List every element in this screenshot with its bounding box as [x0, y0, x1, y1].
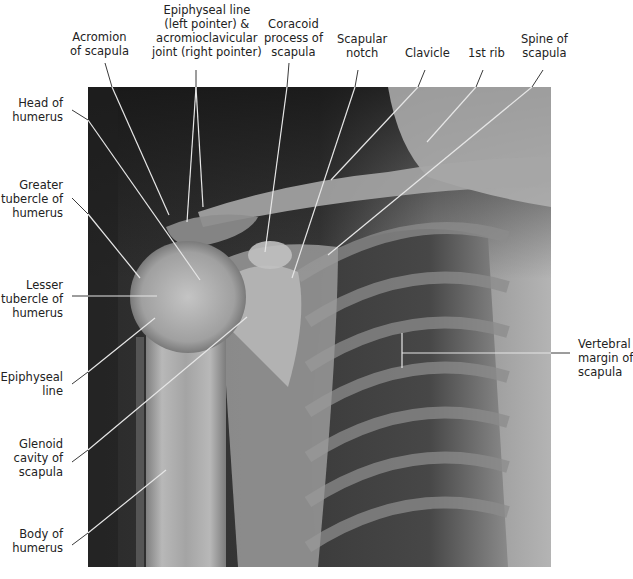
label-line: Greater	[1, 178, 63, 192]
label-line: Epiphyseal line	[152, 3, 262, 17]
label-first-rib: 1st rib	[468, 46, 505, 60]
label-line: Vertebral	[578, 337, 633, 351]
label-line: joint (right pointer)	[152, 45, 262, 59]
label-line: scapula	[578, 365, 633, 379]
label-head-of-humerus: Head of humerus	[12, 96, 63, 124]
label-epiphyseal-line: Epiphyseal line	[1, 370, 63, 398]
label-line: humerus	[12, 541, 63, 555]
label-line: (left pointer) &	[152, 17, 262, 31]
label-coracoid-process: Coracoid process of scapula	[264, 17, 323, 59]
label-line: scapula	[14, 465, 63, 479]
label-line: Scapular	[337, 32, 387, 46]
label-spine-of-scapula: Spine of scapula	[521, 32, 568, 60]
label-line: margin of	[578, 351, 633, 365]
label-lesser-tubercle: Lesser tubercle of humerus	[1, 278, 63, 320]
label-line: cavity of	[14, 451, 63, 465]
label-greater-tubercle: Greater tubercle of humerus	[1, 178, 63, 220]
label-line: process of	[264, 31, 323, 45]
label-line: humerus	[12, 110, 63, 124]
label-line: scapula	[521, 46, 568, 60]
label-body-of-humerus: Body of humerus	[12, 527, 63, 555]
label-line: humerus	[1, 306, 63, 320]
label-vertebral-margin: Vertebral margin of scapula	[578, 337, 633, 379]
label-line: scapula	[264, 45, 323, 59]
label-line: Clavicle	[405, 46, 450, 60]
label-line: Glenoid	[14, 437, 63, 451]
label-line: Epiphyseal	[1, 370, 63, 384]
label-epiphyseal-line-and-ac-joint: Epiphyseal line (left pointer) & acromio…	[152, 3, 262, 59]
label-line: Head of	[12, 96, 63, 110]
label-line: humerus	[1, 206, 63, 220]
label-scapular-notch: Scapular notch	[337, 32, 387, 60]
label-line: of scapula	[70, 44, 129, 58]
label-line: acromioclavicular	[152, 31, 262, 45]
label-glenoid-cavity: Glenoid cavity of scapula	[14, 437, 63, 479]
label-line: 1st rib	[468, 46, 505, 60]
label-line: tubercle of	[1, 292, 63, 306]
label-acromion-of-scapula: Acromion of scapula	[70, 30, 129, 58]
label-line: tubercle of	[1, 192, 63, 206]
label-line: Acromion	[70, 30, 129, 44]
label-line: notch	[337, 46, 387, 60]
label-line: Lesser	[1, 278, 63, 292]
shoulder-radiograph	[88, 87, 551, 567]
label-line: line	[1, 384, 63, 398]
label-line: Coracoid	[264, 17, 323, 31]
label-line: Spine of	[521, 32, 568, 46]
radiograph-illustration	[88, 87, 551, 567]
label-clavicle: Clavicle	[405, 46, 450, 60]
label-line: Body of	[12, 527, 63, 541]
